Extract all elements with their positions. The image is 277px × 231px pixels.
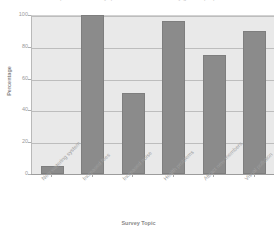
bar [243,31,266,174]
x-axis-title: Survey Topic [0,220,277,226]
x-axis-line [31,174,274,175]
y-tick-label: 40 [6,107,28,113]
y-tick-label: 0 [6,171,28,177]
bar [81,15,104,174]
bar [162,21,185,174]
y-tick-label: 100 [6,12,28,18]
y-axis-ticks: 020406080100 [0,15,28,174]
bar-chart: Responses to survey question about commu… [0,0,277,231]
y-tick-label: 60 [6,76,28,82]
y-tick-label: 80 [6,44,28,50]
chart-title: Responses to survey question about commu… [0,0,277,3]
y-tick-label: 20 [6,139,28,145]
